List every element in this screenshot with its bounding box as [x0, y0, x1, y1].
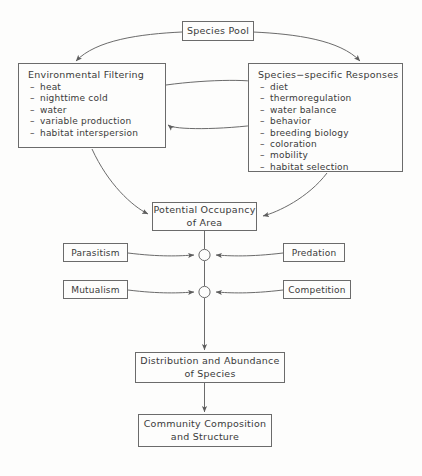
list-item: coloration	[270, 139, 352, 150]
node-competition[interactable]: Competition	[283, 280, 351, 299]
interaction-junction-circle-1	[199, 249, 210, 260]
node-environmental-filtering[interactable]: Environmental Filtering heat nighttime c…	[18, 63, 166, 148]
node-mutualism[interactable]: Mutualism	[63, 280, 128, 299]
list-item: behavior	[270, 116, 352, 127]
list-item: habitat interspersion	[40, 128, 138, 139]
potential-occupancy-line-2: of Area	[187, 217, 223, 230]
species-specific-responses-list: diet thermoregulation water balance beha…	[258, 82, 352, 173]
predation-label: Predation	[292, 247, 337, 259]
list-item: water	[40, 105, 138, 116]
potential-occupancy-line-1: Potential Occupancy	[153, 204, 255, 217]
edge-species-responses-to-potential-occupancy	[263, 173, 327, 216]
distribution-abundance-line-2: of Species	[184, 368, 235, 381]
node-species-specific-responses[interactable]: Species−specific Responses diet thermore…	[248, 63, 403, 172]
species-specific-responses-title: Species−specific Responses	[258, 69, 399, 81]
list-item: habitat selection	[270, 162, 352, 173]
list-item: heat	[40, 82, 138, 93]
list-item: breeding biology	[270, 128, 352, 139]
list-item: nighttime cold	[40, 93, 138, 104]
parasitism-label: Parasitism	[71, 247, 119, 259]
edge-environmental-to-potential-occupancy	[92, 149, 148, 214]
list-item: mobility	[270, 150, 352, 161]
node-parasitism[interactable]: Parasitism	[63, 243, 128, 262]
interaction-junction-circle-2	[199, 286, 210, 297]
list-item: thermoregulation	[270, 93, 352, 104]
community-composition-line-2: and Structure	[171, 431, 239, 444]
list-item: water balance	[270, 105, 352, 116]
competition-label: Competition	[288, 284, 345, 296]
edge-competition-to-junction-2	[216, 290, 283, 293]
environmental-filtering-list: heat nighttime cold water variable produ…	[28, 82, 138, 139]
edge-mutualism-to-junction-2	[128, 290, 194, 293]
node-potential-occupancy[interactable]: Potential Occupancy of Area	[152, 202, 257, 231]
ecology-flowchart-diagram: Species Pool Environmental Filtering hea…	[0, 0, 422, 476]
edge-predation-to-junction-1	[216, 253, 283, 256]
list-item: diet	[270, 82, 352, 93]
edge-species-pool-to-environmental-filtering	[76, 32, 182, 61]
community-composition-line-1: Community Composition	[144, 418, 267, 431]
mutualism-label: Mutualism	[71, 284, 119, 296]
distribution-abundance-line-1: Distribution and Abundance	[140, 355, 279, 368]
list-item: variable production	[40, 116, 138, 127]
edge-parasitism-to-junction-1	[128, 253, 194, 256]
node-distribution-and-abundance[interactable]: Distribution and Abundance of Species	[135, 352, 285, 383]
edge-species-pool-to-species-responses	[253, 32, 360, 61]
node-predation[interactable]: Predation	[283, 243, 345, 262]
environmental-filtering-title: Environmental Filtering	[28, 69, 144, 81]
species-pool-label: Species Pool	[187, 25, 249, 37]
node-species-pool[interactable]: Species Pool	[182, 21, 254, 41]
node-community-composition[interactable]: Community Composition and Structure	[138, 414, 272, 447]
